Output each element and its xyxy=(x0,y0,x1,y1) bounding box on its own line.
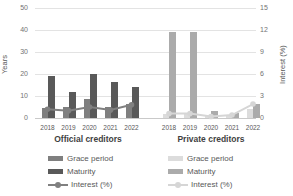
legend-item: Maturity xyxy=(48,165,168,178)
interest-marker xyxy=(229,112,235,118)
legend-private: Grace periodMaturityInterest (%) xyxy=(168,152,288,191)
right-tick-label: 0 xyxy=(260,114,278,121)
left-tick-label: 0 xyxy=(6,114,28,121)
legend-label: Maturity xyxy=(67,167,95,176)
left-tick-label: 30 xyxy=(6,48,28,55)
interest-marker xyxy=(250,101,256,107)
left-tick-label: 10 xyxy=(6,92,28,99)
legend-item: Maturity xyxy=(168,165,288,178)
group-title-private: Private creditors xyxy=(151,134,271,144)
legend-label: Interest (%) xyxy=(191,180,232,189)
year-label: 2022 xyxy=(119,124,145,131)
right-tick-label: 12 xyxy=(260,26,278,33)
year-label: 2022 xyxy=(240,124,266,131)
legend-official: Grace periodMaturityInterest (%) xyxy=(48,152,168,191)
interest-marker xyxy=(208,114,214,120)
legend-label: Maturity xyxy=(187,167,215,176)
interest-marker xyxy=(166,111,172,117)
grace-period-swatch xyxy=(48,156,63,161)
right-axis-title: Interest (%) xyxy=(278,45,287,85)
right-tick-label: 9 xyxy=(260,48,278,55)
grace-period-swatch xyxy=(168,156,183,161)
right-tick-label: 15 xyxy=(260,4,278,11)
legend-item: Interest (%) xyxy=(48,178,168,191)
interest-line-layer xyxy=(35,8,256,118)
interest-marker-sample xyxy=(175,182,181,188)
legend-label: Grace period xyxy=(67,154,113,163)
legend-item: Grace period xyxy=(48,152,168,165)
legend-item: Grace period xyxy=(168,152,288,165)
chart: Years Interest (%) 01020304050 03691215 … xyxy=(0,0,293,196)
maturity-swatch xyxy=(48,169,63,174)
left-tick-label: 20 xyxy=(6,70,28,77)
plot-area xyxy=(35,8,256,118)
x-axis-line xyxy=(35,118,256,119)
left-tick-label: 40 xyxy=(6,26,28,33)
interest-marker-sample xyxy=(55,182,61,188)
group-title-official: Official creditors xyxy=(28,134,148,144)
legend-item: Interest (%) xyxy=(168,178,288,191)
right-tick-label: 3 xyxy=(260,92,278,99)
interest-line-swatch xyxy=(48,181,68,188)
legend-label: Grace period xyxy=(187,154,233,163)
right-tick-label: 6 xyxy=(260,70,278,77)
left-tick-label: 50 xyxy=(6,4,28,11)
interest-line-swatch xyxy=(168,181,188,188)
legend-label: Interest (%) xyxy=(71,180,112,189)
maturity-swatch xyxy=(168,169,183,174)
interest-marker xyxy=(187,111,193,117)
